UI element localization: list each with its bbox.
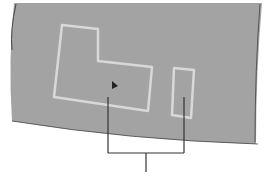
crt-screen (10, 3, 262, 144)
figure (0, 0, 269, 177)
